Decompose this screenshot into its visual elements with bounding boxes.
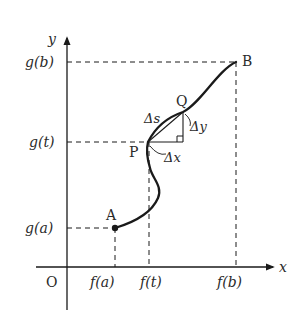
point-b-label: B: [242, 53, 252, 69]
origin-label: O: [46, 274, 57, 290]
dx-label: Δx: [163, 150, 181, 165]
point-q-label: Q: [176, 93, 187, 109]
x-tick-fb: f(b): [216, 274, 242, 290]
y-tick-gb: g(b): [25, 54, 54, 70]
x-tick-ft: f(t): [139, 274, 162, 290]
guide-lines: [67, 62, 236, 267]
right-angle-mark: [177, 136, 183, 142]
x-tick-fa: f(a): [89, 274, 114, 290]
y-tick-gt: g(t): [29, 134, 55, 150]
x-axis-label: x: [279, 259, 287, 275]
ds-label: Δs: [143, 111, 160, 126]
point-p-label: P: [129, 144, 138, 160]
diagram-canvas: y x O g(b) g(t) g(a) f(a) f(t) f(b) A B …: [0, 0, 304, 324]
y-tick-ga: g(a): [25, 220, 53, 236]
point-a-label: A: [105, 207, 117, 223]
point-a-dot: [112, 225, 118, 231]
dy-label: Δy: [189, 119, 207, 134]
y-axis-label: y: [47, 31, 57, 47]
